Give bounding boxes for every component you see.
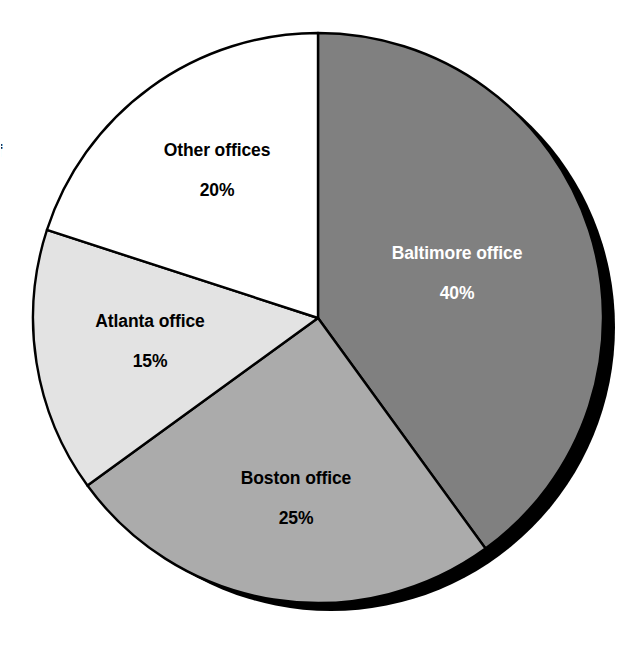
slice-label-atlanta-office-name: Atlanta office — [60, 313, 240, 331]
page-edge-glyph-artifact: f — [1, 140, 8, 161]
slice-label-atlanta-office: Atlanta office 15% — [60, 313, 240, 370]
slice-label-baltimore-office-value: 40% — [352, 285, 562, 303]
slice-label-boston-office-name: Boston office — [196, 470, 396, 488]
slice-label-boston-office: Boston office 25% — [196, 470, 396, 527]
slice-label-other-offices-name: Other offices — [122, 142, 312, 160]
page-edge-glyph-character: f — [1, 140, 8, 161]
slice-label-other-offices: Other offices 20% — [122, 142, 312, 199]
slice-label-baltimore-office-name: Baltimore office — [352, 245, 562, 263]
slice-label-atlanta-office-value: 15% — [60, 353, 240, 371]
slice-label-baltimore-office: Baltimore office 40% — [352, 245, 562, 302]
slice-label-boston-office-value: 25% — [196, 510, 396, 528]
slice-label-other-offices-value: 20% — [122, 182, 312, 200]
